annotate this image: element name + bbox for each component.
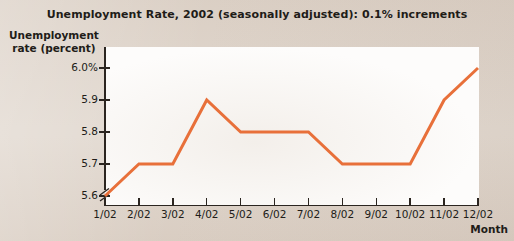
data-series-layer: [0, 0, 514, 241]
x-axis-title: Month: [470, 223, 508, 235]
unemployment-rate-line-chart: Unemployment Rate, 2002 (seasonally adju…: [0, 0, 514, 241]
unemployment-rate-line: [105, 68, 478, 196]
